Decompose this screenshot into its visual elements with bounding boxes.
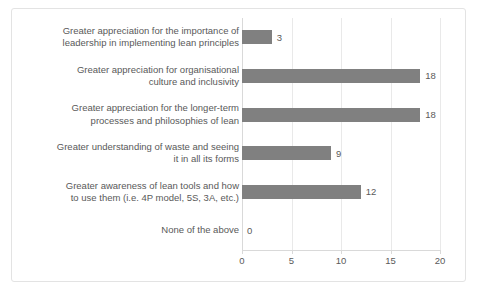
bar[interactable] — [242, 108, 420, 122]
axis-tick-mark — [242, 250, 243, 254]
bar-value-label: 3 — [277, 33, 282, 43]
category-label: Greater awareness of lean tools and how … — [18, 180, 239, 205]
bar-value-label: 18 — [425, 110, 436, 120]
category-label: Greater understanding of waste and seein… — [18, 141, 239, 166]
bar-value-label: 0 — [247, 226, 252, 236]
bar-row[interactable]: 3 — [242, 30, 477, 44]
category-label: None of the above — [18, 224, 239, 237]
bar[interactable] — [242, 69, 420, 83]
axis-tick-label: 10 — [336, 255, 347, 266]
bar-row[interactable]: 9 — [242, 146, 477, 160]
axis-tick-mark — [440, 250, 441, 254]
axis-tick-label: 5 — [289, 255, 294, 266]
bar-value-label: 9 — [336, 149, 341, 159]
bar-row[interactable]: 0 — [242, 224, 477, 238]
gridline — [440, 18, 441, 250]
axis-tick-mark — [292, 250, 293, 254]
axis-tick-label: 0 — [239, 255, 244, 266]
bar[interactable] — [242, 185, 361, 199]
value-axis: 05101520 — [242, 250, 440, 270]
bar-value-label: 12 — [366, 187, 377, 197]
plot-area: 318189120 — [242, 18, 440, 250]
bar-row[interactable]: 12 — [242, 185, 477, 199]
bar-value-label: 18 — [425, 71, 436, 81]
bar-row[interactable]: 18 — [242, 69, 477, 83]
gridline — [391, 18, 392, 250]
bar[interactable] — [242, 146, 331, 160]
value-axis-line — [242, 18, 243, 250]
category-label: Greater appreciation for the importance … — [18, 25, 239, 50]
gridline — [341, 18, 342, 250]
bar[interactable] — [242, 30, 272, 44]
category-label: Greater appreciation for the longer-term… — [18, 102, 239, 127]
axis-tick-mark — [391, 250, 392, 254]
category-label: Greater appreciation for organisational … — [18, 64, 239, 89]
axis-tick-label: 20 — [435, 255, 446, 266]
gridline — [292, 18, 293, 250]
category-axis-labels: Greater appreciation for the importance … — [18, 18, 239, 250]
chart-container: Greater appreciation for the importance … — [11, 8, 466, 282]
bar-row[interactable]: 18 — [242, 108, 477, 122]
axis-tick-mark — [341, 250, 342, 254]
axis-tick-label: 15 — [385, 255, 396, 266]
